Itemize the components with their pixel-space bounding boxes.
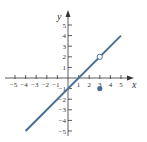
x-tick-label: 2 — [87, 81, 91, 89]
y-axis-arrow-icon — [66, 10, 71, 17]
x-tick-labels: −5−4−3−2−112345 — [10, 81, 123, 89]
x-tick-label: 5 — [119, 81, 123, 89]
function-graph: −5−4−3−2−112345 54321−1−2−3−4−5 x y — [0, 0, 147, 142]
x-tick-label: −5 — [10, 81, 18, 89]
y-tick-label: −5 — [59, 128, 67, 136]
y-tick-label: 3 — [63, 43, 67, 51]
x-tick-label: −3 — [31, 81, 39, 89]
y-tick-label: −4 — [59, 117, 67, 125]
x-tick-label: −2 — [42, 81, 50, 89]
y-tick-labels: 54321−1−2−3−4−5 — [59, 22, 67, 136]
y-tick-label: 4 — [63, 32, 67, 40]
x-tick-label: 4 — [109, 81, 113, 89]
filled-point — [97, 86, 102, 91]
open-circle-point — [97, 54, 102, 59]
y-tick-label: −3 — [59, 106, 67, 114]
function-line — [26, 36, 121, 131]
y-tick-label: 1 — [63, 64, 67, 72]
x-axis-label: x — [131, 79, 137, 90]
x-tick-label: 1 — [77, 81, 81, 89]
x-tick-label: −4 — [20, 81, 28, 89]
y-tick-label: 2 — [63, 53, 67, 61]
axes — [5, 14, 130, 136]
y-tick-label: 5 — [63, 22, 67, 30]
y-axis-label: y — [56, 11, 62, 22]
